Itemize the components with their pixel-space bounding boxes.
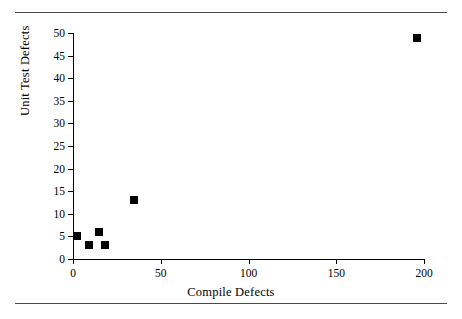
- y-tick-label: 5: [59, 228, 65, 244]
- y-tick-mark: [68, 101, 73, 102]
- x-tick-mark: [249, 259, 250, 264]
- x-tick-mark: [336, 259, 337, 264]
- y-tick-mark: [68, 33, 73, 34]
- x-tick-label: 50: [155, 266, 167, 281]
- y-tick-label: 25: [54, 138, 66, 154]
- y-tick-mark: [68, 214, 73, 215]
- data-point: [130, 196, 138, 204]
- y-axis-title: Unit Test Defects: [18, 26, 33, 116]
- y-tick-mark: [68, 146, 73, 147]
- plot-area: 05101520253035404550 050100150200: [73, 33, 424, 259]
- y-tick-mark: [68, 123, 73, 124]
- y-tick-mark: [68, 169, 73, 170]
- y-tick-label: 40: [54, 70, 66, 86]
- data-point: [85, 241, 93, 249]
- y-tick-label: 35: [54, 93, 66, 109]
- y-tick-label: 50: [54, 25, 66, 41]
- y-tick-label: 0: [59, 251, 65, 267]
- y-tick-mark: [68, 191, 73, 192]
- y-tick-label: 20: [54, 161, 66, 177]
- x-tick-mark: [161, 259, 162, 264]
- y-tick-mark: [68, 56, 73, 57]
- y-tick-mark: [68, 78, 73, 79]
- y-tick-label: 30: [54, 115, 66, 131]
- data-point: [413, 34, 421, 42]
- bottom-horizontal-rule: [15, 303, 447, 304]
- x-tick-label: 150: [328, 266, 345, 281]
- x-tick-label: 200: [415, 266, 432, 281]
- data-point: [95, 228, 103, 236]
- x-tick-label: 100: [240, 266, 257, 281]
- x-tick-label: 0: [70, 266, 76, 281]
- data-point: [101, 241, 109, 249]
- scatter-plot-figure: 05101520253035404550 050100150200 Unit T…: [0, 12, 462, 303]
- x-tick-mark: [73, 259, 74, 264]
- y-tick-label: 10: [54, 206, 66, 222]
- data-point: [73, 232, 81, 240]
- x-tick-mark: [424, 259, 425, 264]
- x-axis-title: Compile Defects: [0, 285, 462, 300]
- y-axis-line: [73, 33, 74, 260]
- y-tick-label: 15: [54, 183, 66, 199]
- y-tick-label: 45: [54, 48, 66, 64]
